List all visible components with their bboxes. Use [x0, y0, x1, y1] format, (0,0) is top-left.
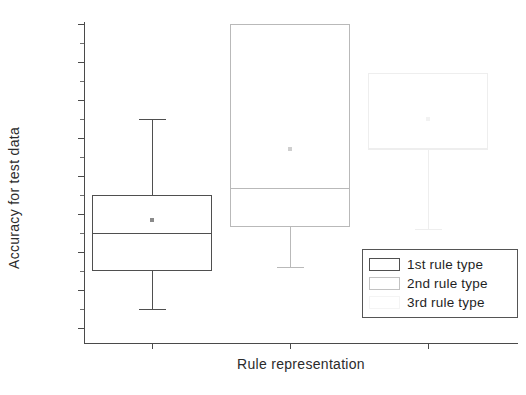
lower-whisker-cap	[277, 267, 304, 268]
upper-whisker-stem	[152, 119, 153, 195]
legend-label-2nd-rule-type: 2nd rule type	[407, 276, 488, 291]
y-axis-title: Accuracy for test data	[6, 127, 22, 269]
lower-whisker-cap	[139, 309, 166, 310]
lower-whisker-cap	[415, 229, 442, 230]
y-tick-minor	[80, 81, 84, 82]
legend-swatch-1st-rule-type	[369, 258, 400, 271]
x-axis-line	[84, 343, 518, 344]
box-rect	[230, 24, 350, 227]
median-line	[92, 233, 212, 234]
x-tick-1	[152, 343, 153, 349]
legend-label-3rd-rule-type: 3rd rule type	[407, 295, 485, 310]
y-tick-100: 100	[0, 24, 84, 25]
y-tick-86: 86	[0, 290, 84, 291]
y-tick-minor	[80, 157, 84, 158]
y-tick-mark	[78, 138, 84, 139]
y-tick-mark	[78, 290, 84, 291]
y-tick-mark	[78, 100, 84, 101]
y-tick-minor	[80, 195, 84, 196]
legend-label-1st-rule-type: 1st rule type	[407, 257, 483, 272]
median-line	[368, 149, 488, 150]
y-tick-98: 98	[0, 62, 84, 63]
median-line	[230, 188, 350, 189]
y-tick-mark	[78, 214, 84, 215]
y-tick-minor	[80, 233, 84, 234]
y-tick-mark	[78, 62, 84, 63]
mean-marker	[150, 218, 154, 222]
y-axis-line	[84, 22, 85, 344]
mean-marker	[288, 147, 292, 151]
y-tick-mark	[78, 252, 84, 253]
legend-item-2nd-rule-type[interactable]: 2nd rule type	[369, 274, 510, 293]
y-tick-minor	[80, 309, 84, 310]
box-rect	[368, 73, 488, 149]
y-tick-minor	[80, 271, 84, 272]
y-tick-minor	[80, 43, 84, 44]
x-tick-3	[428, 343, 429, 349]
legend-swatch-2nd-rule-type	[369, 277, 400, 290]
y-tick-minor	[80, 119, 84, 120]
lower-whisker-stem	[152, 271, 153, 309]
boxplot-figure: 8486889092949698100 Accuracy for test da…	[0, 0, 526, 395]
legend-item-3rd-rule-type[interactable]: 3rd rule type	[369, 293, 510, 312]
y-tick-96: 96	[0, 100, 84, 101]
y-tick-mark	[78, 328, 84, 329]
mean-marker	[426, 117, 430, 121]
lower-whisker-stem	[290, 227, 291, 267]
y-tick-mark	[78, 176, 84, 177]
legend-swatch-3rd-rule-type	[369, 296, 400, 309]
x-tick-2	[290, 343, 291, 349]
legend-item-1st-rule-type[interactable]: 1st rule type	[369, 255, 510, 274]
x-axis-title: Rule representation	[84, 356, 518, 372]
legend: 1st rule type 2nd rule type 3rd rule typ…	[362, 249, 518, 318]
lower-whisker-stem	[428, 149, 429, 229]
upper-whisker-cap	[139, 119, 166, 120]
y-tick-84: 84	[0, 328, 84, 329]
y-tick-mark	[78, 24, 84, 25]
